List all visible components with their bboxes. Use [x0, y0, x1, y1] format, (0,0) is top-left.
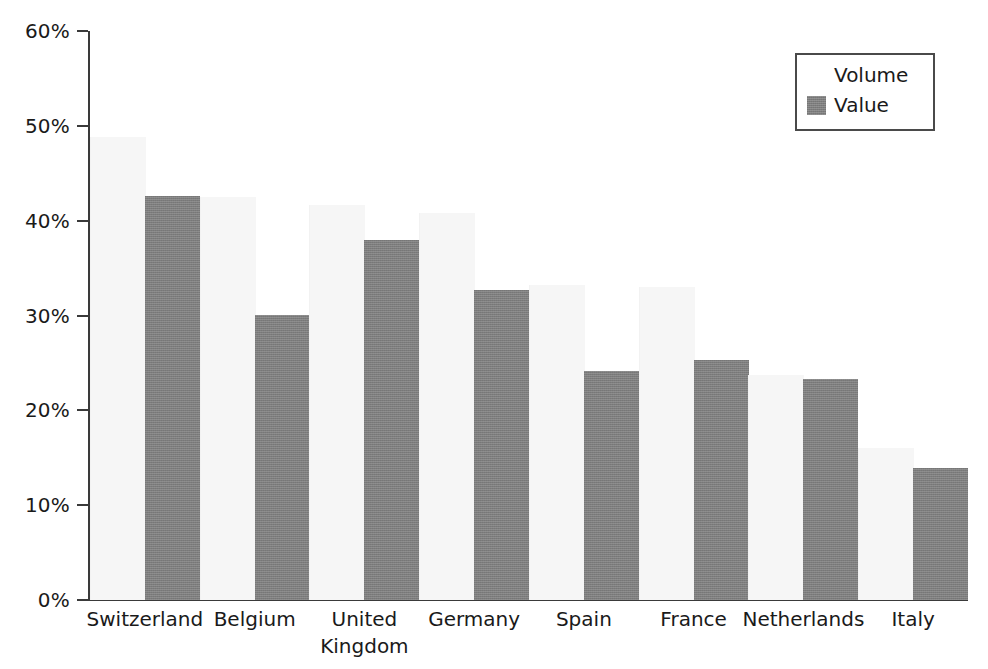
- x-axis-category-label: Germany: [413, 606, 535, 633]
- x-axis-category-label: Spain: [523, 606, 645, 633]
- bar-volume: [309, 205, 365, 600]
- y-axis-tick: [77, 504, 88, 506]
- legend-label-volume: Volume: [834, 65, 908, 85]
- bar-value: [803, 379, 858, 600]
- bar-volume: [748, 375, 804, 600]
- y-axis-tick-label: 50%: [4, 116, 70, 136]
- bar-value: [255, 315, 310, 600]
- bar-group: [90, 0, 200, 601]
- bar-group: [639, 0, 749, 601]
- y-axis-tick-label: 30%: [4, 306, 70, 326]
- legend-item-value: Value: [807, 91, 889, 119]
- y-axis-tick-label: 20%: [4, 400, 70, 420]
- bar-group: [200, 0, 310, 601]
- bar-group: [309, 0, 419, 601]
- bar-value: [584, 371, 639, 600]
- x-axis-category-labels: SwitzerlandBelgiumUnited KingdomGermanyS…: [90, 606, 968, 666]
- legend-item-volume: Volume: [807, 61, 908, 89]
- y-axis-tick: [77, 125, 88, 127]
- legend-label-value: Value: [834, 95, 889, 115]
- bar-value: [364, 240, 419, 600]
- y-axis-tick: [77, 220, 88, 222]
- bar-value: [694, 360, 749, 600]
- y-axis-tick-label: 60%: [4, 21, 70, 41]
- chart-legend: Volume Value: [795, 53, 935, 131]
- x-axis-category-label: Italy: [852, 606, 974, 633]
- bar-value: [145, 196, 200, 600]
- bar-chart: 0%10%20%30%40%50%60% SwitzerlandBelgiumU…: [0, 0, 988, 669]
- legend-swatch-value-icon: [807, 96, 826, 115]
- bar-volume: [639, 287, 695, 600]
- x-axis-category-label: France: [633, 606, 755, 633]
- x-axis-category-label: Netherlands: [743, 606, 865, 633]
- y-axis-tick-label: 0%: [4, 590, 70, 610]
- bar-volume: [858, 448, 914, 600]
- bar-volume: [529, 285, 585, 600]
- bar-value: [913, 468, 968, 600]
- y-axis-tick: [77, 599, 88, 601]
- bar-group: [419, 0, 529, 601]
- bar-group: [529, 0, 639, 601]
- y-axis-tick-label: 40%: [4, 211, 70, 231]
- y-axis-tick: [77, 315, 88, 317]
- bar-volume: [419, 213, 475, 600]
- y-axis-tick: [77, 30, 88, 32]
- y-axis-tick-label: 10%: [4, 495, 70, 515]
- bar-volume: [200, 197, 256, 600]
- bar-volume: [90, 137, 146, 600]
- legend-swatch-volume-icon: [807, 66, 826, 85]
- x-axis-category-label: Switzerland: [84, 606, 206, 633]
- x-axis-category-label: United Kingdom: [304, 606, 426, 660]
- x-axis-category-label: Belgium: [194, 606, 316, 633]
- bar-value: [474, 290, 529, 600]
- y-axis-tick: [77, 409, 88, 411]
